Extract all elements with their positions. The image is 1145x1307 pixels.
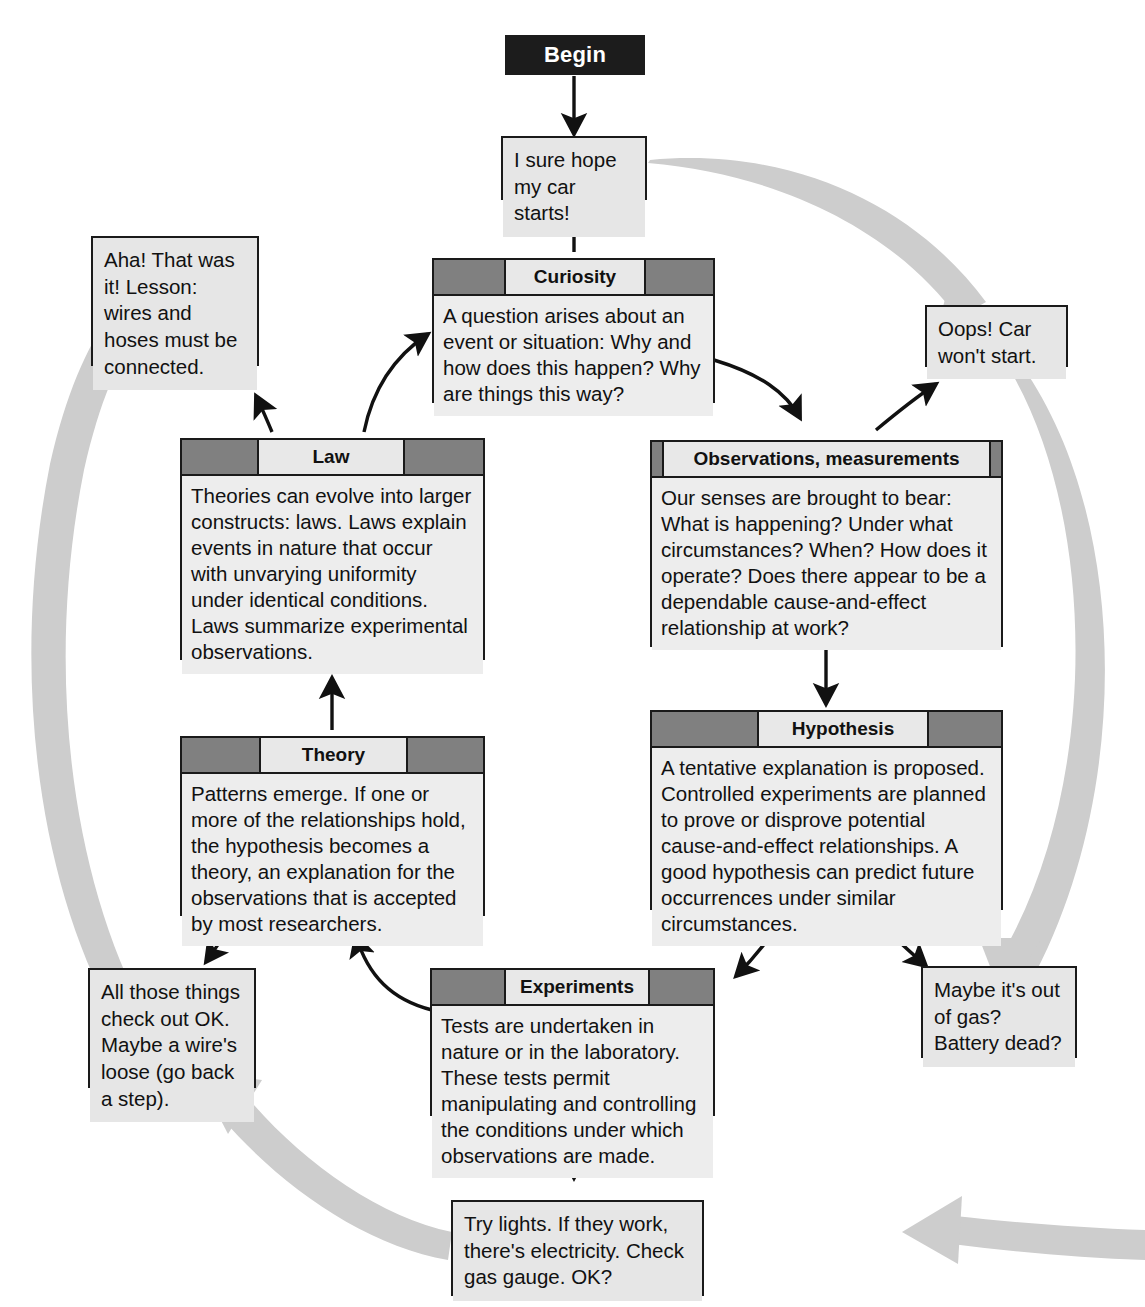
stage-title-observations: Observations, measurements (662, 442, 991, 476)
header-pad-left (434, 260, 504, 294)
stage-header-theory: Theory (182, 738, 483, 774)
arrow-law-to-aha (256, 396, 272, 432)
stage-body-law: Theories can evolve into larger construc… (182, 476, 483, 674)
stage-box-theory: Theory Patterns emerge. If one or more o… (180, 736, 485, 916)
header-pad-right (408, 738, 483, 772)
stage-body-observations: Our senses are brought to bear: What is … (652, 478, 1001, 650)
stage-header-law: Law (182, 440, 483, 476)
header-pad-right (650, 970, 713, 1004)
header-pad-right (929, 712, 1001, 746)
begin-label: Begin (544, 42, 606, 68)
note-car-starts-text: I sure hope my car starts! (503, 138, 645, 237)
note-aha-lesson-text: Aha! That was it! Lesson: wires and hose… (93, 238, 257, 390)
header-pad-right (405, 440, 483, 474)
header-pad-left (652, 442, 662, 476)
stage-header-curiosity: Curiosity (434, 260, 713, 296)
stage-header-observations: Observations, measurements (652, 442, 1001, 478)
stage-box-hypothesis: Hypothesis A tentative explanation is pr… (650, 710, 1003, 910)
stage-box-law: Law Theories can evolve into larger cons… (180, 438, 485, 660)
note-check-out-ok: All those things check out OK. Maybe a w… (88, 968, 256, 1088)
stage-body-hypothesis: A tentative explanation is proposed. Con… (652, 748, 1001, 946)
arrow-law-to-curiosity (364, 334, 428, 432)
stage-title-law: Law (257, 440, 405, 474)
arrow-observations-to-oops (876, 384, 936, 430)
stage-box-curiosity: Curiosity A question arises about an eve… (432, 258, 715, 403)
note-car-wont-start: Oops! Car won't start. (925, 305, 1068, 367)
stage-title-experiments: Experiments (504, 970, 650, 1004)
stage-title-curiosity: Curiosity (504, 260, 646, 294)
header-pad-left (182, 738, 259, 772)
header-pad-left (432, 970, 504, 1004)
arrow-curiosity-to-observations (714, 360, 800, 418)
note-out-of-gas: Maybe it's out of gas? Battery dead? (921, 966, 1077, 1058)
stage-title-hypothesis: Hypothesis (757, 712, 929, 746)
stage-header-hypothesis: Hypothesis (652, 712, 1001, 748)
stage-body-curiosity: A question arises about an event or situ… (434, 296, 713, 416)
arrow-experiments-to-theory (356, 936, 432, 1010)
note-try-lights-text: Try lights. If they work, there's electr… (453, 1202, 702, 1301)
begin-banner: Begin (505, 35, 645, 75)
stage-box-experiments: Experiments Tests are undertaken in natu… (430, 968, 715, 1116)
note-car-starts: I sure hope my car starts! (501, 136, 647, 200)
note-out-of-gas-text: Maybe it's out of gas? Battery dead? (923, 968, 1075, 1067)
stage-box-observations: Observations, measurements Our senses ar… (650, 440, 1003, 647)
scientific-method-diagram: Begin I sure hope my car starts! Oops! C… (0, 0, 1145, 1307)
note-try-lights: Try lights. If they work, there's electr… (451, 1200, 704, 1296)
note-car-wont-start-text: Oops! Car won't start. (927, 307, 1066, 379)
header-pad-left (182, 440, 257, 474)
header-pad-right (646, 260, 713, 294)
header-pad-left (652, 712, 757, 746)
stage-body-theory: Patterns emerge. If one or more of the r… (182, 774, 483, 946)
stage-header-experiments: Experiments (432, 970, 713, 1006)
header-pad-right (991, 442, 1001, 476)
stage-body-experiments: Tests are undertaken in nature or in the… (432, 1006, 713, 1178)
stage-title-theory: Theory (259, 738, 408, 772)
note-aha-lesson: Aha! That was it! Lesson: wires and hose… (91, 236, 259, 366)
note-check-out-ok-text: All those things check out OK. Maybe a w… (90, 970, 254, 1122)
